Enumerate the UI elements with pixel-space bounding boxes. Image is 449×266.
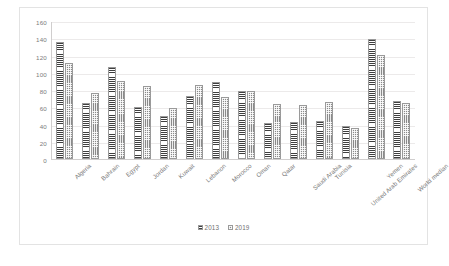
legend-swatch-2013-icon: [198, 225, 203, 230]
x-axis-category-label: Qatar: [280, 162, 296, 178]
bar-group: [182, 22, 208, 159]
legend-item-2013[interactable]: 2013: [198, 224, 219, 231]
bar-group: [337, 22, 363, 159]
bar-2013[interactable]: [368, 39, 376, 159]
plot-area: 020406080100120140160: [51, 22, 415, 160]
bar-2013[interactable]: [108, 67, 116, 159]
bar-2019[interactable]: [377, 55, 385, 159]
bar-2013[interactable]: [342, 126, 350, 159]
chart-container: 020406080100120140160 AlgeriaBahrainEgyp…: [19, 7, 428, 245]
bar-2013[interactable]: [264, 123, 272, 159]
x-axis-category-label: Kuwait: [177, 162, 196, 180]
y-axis-tick-label: 40: [40, 122, 47, 129]
bar-group: [363, 22, 389, 159]
x-axis-category-label: Oman: [254, 162, 271, 179]
bar-2013[interactable]: [212, 82, 220, 159]
bar-2019[interactable]: [351, 128, 359, 159]
bar-2019[interactable]: [195, 85, 203, 159]
chart-legend: 2013 2019: [20, 224, 427, 231]
bar-2019[interactable]: [169, 108, 177, 159]
y-axis-tick-label: 120: [36, 53, 47, 60]
bar-2013[interactable]: [134, 107, 142, 159]
x-axis-line: [51, 159, 415, 160]
bar-2019[interactable]: [143, 86, 151, 159]
bar-series-layer: [52, 22, 415, 159]
y-axis-tick-label: 0: [43, 157, 47, 164]
bar-group: [233, 22, 259, 159]
x-axis-category-label: Egypt: [124, 162, 141, 178]
x-axis-category-label: Lebanon: [204, 162, 227, 184]
bar-2013[interactable]: [316, 121, 324, 159]
bar-2019[interactable]: [273, 104, 281, 159]
x-axis-category-label: Algeria: [73, 162, 92, 180]
bar-group: [311, 22, 337, 159]
y-axis-tick-label: 160: [36, 19, 47, 26]
bar-group: [78, 22, 104, 159]
bar-2013[interactable]: [56, 42, 64, 159]
bar-2019[interactable]: [325, 102, 333, 159]
bar-2019[interactable]: [299, 105, 307, 159]
bar-group: [208, 22, 234, 159]
bar-group: [285, 22, 311, 159]
legend-swatch-2019-icon: [228, 225, 233, 230]
x-axis-category-label: Jordan: [151, 162, 170, 180]
bar-group: [130, 22, 156, 159]
bar-2019[interactable]: [221, 97, 229, 160]
y-axis-tick-label: 80: [40, 88, 47, 95]
bar-2013[interactable]: [160, 116, 168, 159]
y-axis-tick-label: 100: [36, 70, 47, 77]
x-axis-category-labels: AlgeriaBahrainEgyptJordanKuwaitLebanonMo…: [52, 162, 416, 222]
bar-2013[interactable]: [393, 101, 401, 159]
bar-group: [52, 22, 78, 159]
bar-2019[interactable]: [65, 63, 73, 159]
x-axis-category-label: Morocco: [230, 162, 253, 183]
x-axis-category-label: World median: [416, 162, 449, 193]
bar-2019[interactable]: [91, 93, 99, 159]
x-axis-category-label: Bahrain: [100, 162, 121, 182]
bar-group: [156, 22, 182, 159]
legend-label-2013: 2013: [205, 224, 219, 231]
bar-2013[interactable]: [82, 103, 90, 160]
y-axis-tick-label: 140: [36, 36, 47, 43]
bar-2019[interactable]: [247, 91, 255, 160]
bar-2019[interactable]: [117, 81, 125, 159]
legend-label-2019: 2019: [235, 224, 249, 231]
bar-2013[interactable]: [238, 91, 246, 160]
bar-group: [104, 22, 130, 159]
legend-item-2019[interactable]: 2019: [228, 224, 249, 231]
bar-group: [389, 22, 415, 159]
y-axis-tick-label: 20: [40, 139, 47, 146]
bar-2013[interactable]: [186, 96, 194, 159]
bar-2013[interactable]: [290, 122, 298, 159]
y-axis-tick-label: 60: [40, 105, 47, 112]
bar-2019[interactable]: [402, 103, 410, 159]
bar-group: [259, 22, 285, 159]
